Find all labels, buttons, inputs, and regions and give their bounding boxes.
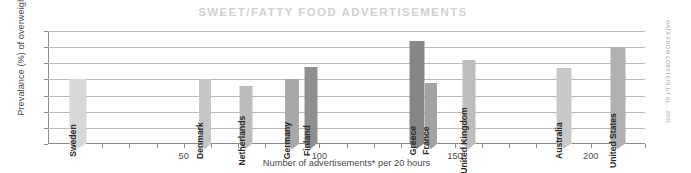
- bar-country-label: Finland: [303, 126, 312, 157]
- y-tick-mark: [44, 79, 48, 80]
- gridline: [48, 63, 645, 64]
- y-tick-mark: [44, 63, 48, 64]
- bar: United Kingdom: [462, 60, 475, 144]
- x-tick-mark: [319, 144, 320, 148]
- x-tick-mark: [374, 144, 375, 148]
- bar-country-label: France: [422, 127, 431, 155]
- bar: United States: [610, 47, 625, 144]
- bar-country-label: Greece: [408, 126, 417, 155]
- x-tick-mark: [347, 144, 348, 148]
- source-credit: DATA FROM LOBSTEIN ET AL., 2005.: [665, 0, 671, 148]
- x-tick-mark: [509, 144, 510, 148]
- y-tick-mark: [44, 144, 48, 145]
- chart-title: SWEET/FATTY FOOD ADVERTISEMENTS: [48, 6, 618, 18]
- bar: Germany: [285, 79, 299, 144]
- plot-area: 05101520253035 50100150200 SwedenDenmark…: [48, 31, 645, 144]
- x-tick-mark: [536, 144, 537, 148]
- y-axis-label: Prevalance (%) of overweight: [16, 0, 26, 120]
- x-tick-mark: [129, 144, 130, 148]
- chart-root: SWEET/FATTY FOOD ADVERTISEMENTS Prevalan…: [0, 0, 691, 173]
- y-tick-mark: [44, 31, 48, 32]
- x-tick-mark: [265, 144, 266, 148]
- bar: Finland: [305, 67, 318, 144]
- x-tick-mark: [184, 144, 185, 148]
- x-tick-mark: [401, 144, 402, 148]
- y-tick-mark: [44, 47, 48, 48]
- bar-country-label: Sweden: [69, 125, 78, 157]
- x-tick-mark: [157, 144, 158, 148]
- bar: Netherlands: [240, 86, 253, 144]
- bar-country-label: Australia: [555, 123, 564, 160]
- bar: Sweden: [69, 79, 86, 144]
- bar: Australia: [556, 68, 571, 144]
- x-tick-mark: [455, 144, 456, 148]
- x-tick-mark: [482, 144, 483, 148]
- bar: France: [425, 83, 437, 144]
- gridline: [48, 31, 645, 32]
- y-tick-mark: [44, 112, 48, 113]
- bar-country-label: Germany: [284, 122, 293, 159]
- x-axis-label: Number of advertisements* per 20 hours: [48, 158, 645, 168]
- y-tick-mark: [44, 128, 48, 129]
- x-tick-mark: [591, 144, 592, 148]
- bar-country-label: Denmark: [197, 123, 206, 160]
- x-tick-mark: [645, 144, 646, 148]
- y-tick-mark: [44, 96, 48, 97]
- x-tick-mark: [102, 144, 103, 148]
- gridline: [48, 47, 645, 48]
- bar: Denmark: [199, 79, 211, 144]
